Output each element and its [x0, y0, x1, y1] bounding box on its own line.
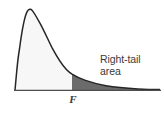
right-tail-area-label-line2: area — [100, 66, 140, 78]
critical-value-label: F — [66, 93, 80, 105]
right-tail-area-figure: Right-tail area F — [0, 0, 164, 116]
right-tail-area-label: Right-tail area — [100, 54, 140, 77]
right-tail-area-label-line1: Right-tail — [100, 53, 140, 65]
